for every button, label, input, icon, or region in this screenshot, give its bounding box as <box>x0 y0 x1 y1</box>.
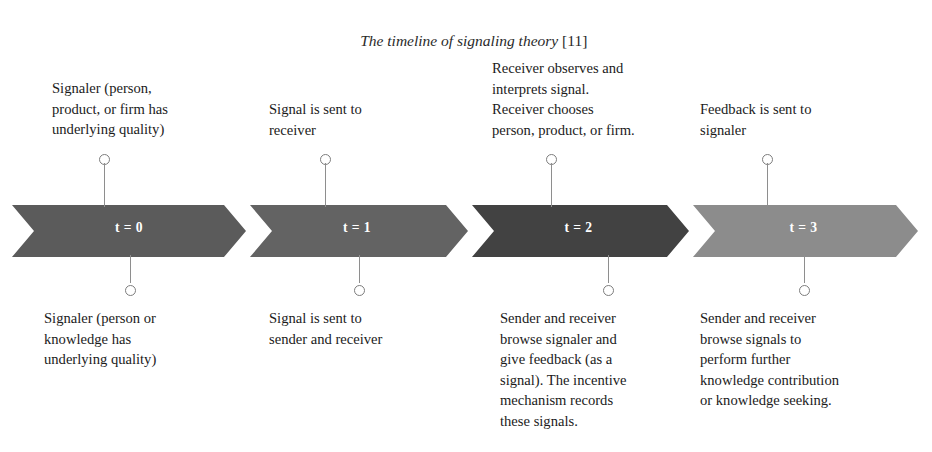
caption-line: or knowledge seeking. <box>700 390 839 411</box>
stage-caption-below-t1: Signal is sent tosender and receiver <box>269 308 382 349</box>
caption-line: Signaler (person or <box>44 308 156 329</box>
caption-line: knowledge contribution <box>700 370 839 391</box>
stage-caption-above-t2: Receiver observes andinterprets signal.R… <box>492 58 635 140</box>
pin-stem <box>359 255 361 283</box>
connector-pin-above-t2 <box>543 154 559 207</box>
pin-stem <box>551 163 553 207</box>
caption-line: give feedback (as a <box>500 349 627 370</box>
stage-caption-below-t0: Signaler (person orknowledge hasunderlyi… <box>44 308 156 370</box>
connector-pin-below-t0 <box>122 255 138 296</box>
pin-ring-icon <box>354 285 365 296</box>
caption-line: underlying quality) <box>52 119 168 140</box>
stage-time-label-t2: t = 2 <box>529 220 629 236</box>
connector-pin-below-t1 <box>351 255 367 296</box>
pin-stem <box>767 163 769 207</box>
caption-line: signal). The incentive <box>500 370 627 391</box>
pin-ring-icon <box>603 285 614 296</box>
pin-stem <box>608 255 610 283</box>
caption-line: browse signaler and <box>500 329 627 350</box>
caption-line: Receiver chooses <box>492 99 635 120</box>
caption-line: underlying quality) <box>44 349 156 370</box>
caption-line: browse signals to <box>700 329 839 350</box>
pin-ring-icon <box>799 285 810 296</box>
caption-line: Sender and receiver <box>700 308 839 329</box>
caption-line: Signaler (person, <box>52 78 168 99</box>
stage-time-label-t3: t = 3 <box>754 220 854 236</box>
stage-caption-above-t1: Signal is sent toreceiver <box>269 99 362 140</box>
pin-stem <box>130 255 132 283</box>
stage-caption-above-t0: Signaler (person,product, or firm hasund… <box>52 78 168 140</box>
caption-line: these signals. <box>500 411 627 432</box>
connector-pin-above-t3 <box>759 154 775 207</box>
pin-ring-icon <box>125 285 136 296</box>
pin-stem <box>104 163 106 207</box>
caption-line: knowledge has <box>44 329 156 350</box>
stage-caption-below-t3: Sender and receiverbrowse signals toperf… <box>700 308 839 411</box>
connector-pin-below-t3 <box>796 255 812 296</box>
pin-stem <box>325 163 327 207</box>
caption-line: mechanism records <box>500 390 627 411</box>
connector-pin-below-t2 <box>600 255 616 296</box>
caption-line: interprets signal. <box>492 79 635 100</box>
caption-line: perform further <box>700 349 839 370</box>
stage-time-label-t1: t = 1 <box>307 220 407 236</box>
caption-line: sender and receiver <box>269 329 382 350</box>
connector-pin-above-t0 <box>96 154 112 207</box>
caption-line: Feedback is sent to <box>700 99 811 120</box>
stage-caption-above-t3: Feedback is sent tosignaler <box>700 99 811 140</box>
caption-line: signaler <box>700 120 811 141</box>
caption-line: Sender and receiver <box>500 308 627 329</box>
connector-pin-above-t1 <box>317 154 333 207</box>
timeline-figure: The timeline of signaling theory [11] t … <box>0 0 932 452</box>
stage-time-label-t0: t = 0 <box>79 220 179 236</box>
caption-line: person, product, or firm. <box>492 120 635 141</box>
stage-caption-below-t2: Sender and receiverbrowse signaler andgi… <box>500 308 627 432</box>
caption-line: Receiver observes and <box>492 58 635 79</box>
pin-stem <box>804 255 806 283</box>
caption-line: product, or firm has <box>52 99 168 120</box>
caption-line: Signal is sent to <box>269 99 362 120</box>
caption-line: Signal is sent to <box>269 308 382 329</box>
caption-line: receiver <box>269 120 362 141</box>
